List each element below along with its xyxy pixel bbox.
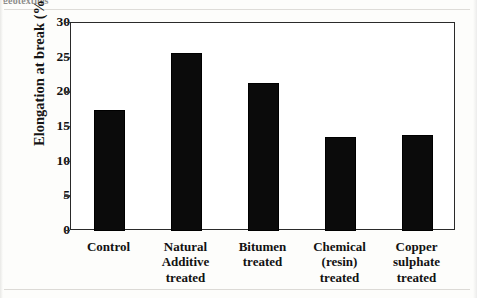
bar bbox=[402, 135, 433, 231]
bar-chart: Elongation at break (%) 302520151050 Con… bbox=[0, 0, 477, 298]
bar bbox=[171, 53, 202, 231]
x-axis-category-line: sulphate bbox=[369, 254, 465, 269]
x-axis-category-label: Coppersulphatetreated bbox=[369, 239, 465, 285]
bar bbox=[94, 110, 125, 231]
x-axis-category-line: treated bbox=[138, 270, 234, 285]
bar bbox=[248, 83, 279, 231]
bar bbox=[325, 137, 356, 231]
y-axis-tick-mark bbox=[64, 230, 70, 231]
x-axis-category-line: Copper bbox=[369, 239, 465, 254]
scanned-figure-page: geotextiles Elongation at break (%) 3025… bbox=[0, 0, 477, 298]
x-axis-category-line: treated bbox=[369, 270, 465, 285]
plot-frame bbox=[70, 22, 455, 230]
